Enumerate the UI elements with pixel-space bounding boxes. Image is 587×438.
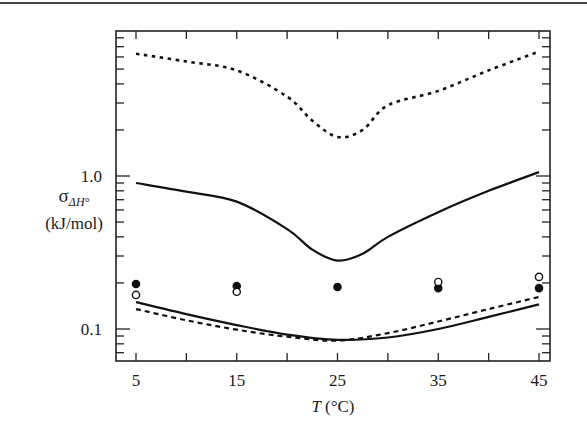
y-axis-title: σΔH° (kJ/mol) bbox=[34, 185, 114, 235]
x-tick-label: 25 bbox=[329, 371, 346, 390]
y-axis-subscript: ΔH° bbox=[69, 195, 90, 209]
open-circle-marker bbox=[132, 291, 139, 298]
x-tick-label: 15 bbox=[228, 371, 245, 390]
axis-ticks bbox=[116, 31, 550, 361]
x-axis-title: T(°C) bbox=[312, 397, 355, 416]
x-tick-labels: 515253545 bbox=[132, 371, 548, 390]
data-series bbox=[132, 52, 542, 341]
y-axis-symbol: σ bbox=[59, 185, 69, 206]
x-tick-label: 5 bbox=[132, 371, 141, 390]
x-tick-label: 35 bbox=[430, 371, 447, 390]
open-circle-marker bbox=[535, 273, 542, 280]
y-axis-unit: (kJ/mol) bbox=[34, 213, 114, 235]
plot-frame bbox=[116, 31, 550, 361]
filled-circle-marker bbox=[132, 280, 139, 287]
x-tick-label: 45 bbox=[531, 371, 548, 390]
y-tick-label: 0.1 bbox=[81, 320, 102, 339]
filled-circle-marker bbox=[535, 285, 542, 292]
open-circle-marker bbox=[435, 278, 442, 285]
y-tick-label: 1.0 bbox=[81, 167, 102, 186]
upper-dotted-line bbox=[136, 52, 539, 138]
middle-solid-line bbox=[136, 172, 539, 261]
filled-circle-marker bbox=[334, 283, 341, 290]
open-circle-marker bbox=[233, 288, 240, 295]
lower-solid-line bbox=[136, 302, 539, 340]
